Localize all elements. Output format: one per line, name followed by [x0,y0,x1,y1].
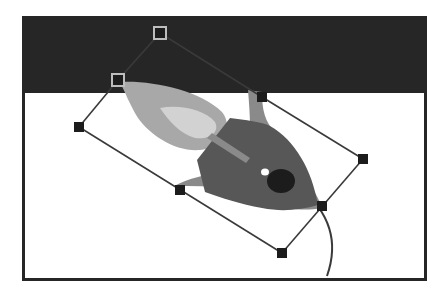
resize-handle-bottom-left-mid[interactable] [175,185,185,195]
resize-handle-top-right-mid[interactable] [257,92,267,102]
pivot-handle[interactable] [112,74,124,86]
resize-handle-right-mid[interactable] [317,201,327,211]
editor-stage [0,0,441,291]
resize-handle-left[interactable] [74,122,84,132]
resize-handle-right[interactable] [358,154,368,164]
artwork-layer[interactable] [0,0,441,291]
rocket-window [267,169,295,193]
rotate-handle[interactable] [154,27,166,39]
rocket-highlight [261,169,269,176]
resize-handle-bottom[interactable] [277,248,287,258]
